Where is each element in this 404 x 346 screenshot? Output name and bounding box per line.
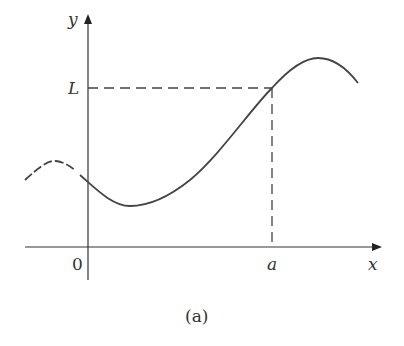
graph (0, 0, 404, 346)
limit-label: L (68, 80, 79, 97)
origin-label: 0 (72, 256, 83, 273)
y-axis-label: y (68, 11, 78, 28)
function-curve (80, 58, 358, 206)
figure-canvas: y L 0 a x (a) (0, 0, 404, 346)
x-axis-label: x (368, 256, 378, 273)
figure-caption: (a) (185, 308, 208, 325)
point-a-label: a (267, 256, 277, 273)
function-curve-left (25, 161, 76, 180)
